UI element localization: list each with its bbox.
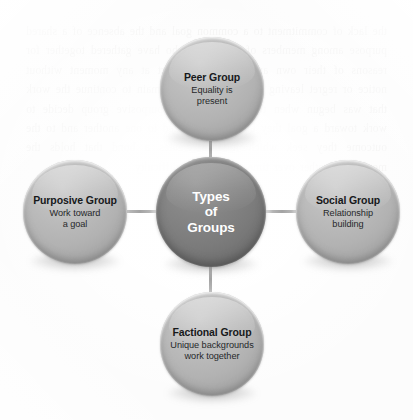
node-title: Purposive Group [27, 194, 123, 207]
center-title-line-1: Types [160, 189, 261, 205]
node-peer-group[interactable]: Peer Group Equality is present [160, 37, 264, 141]
node-types-of-groups[interactable]: Types of Groups [156, 157, 266, 267]
node-labels: Purposive Group Work toward a goal [27, 194, 123, 230]
node-social-group[interactable]: Social Group Relationship building [296, 160, 400, 264]
node-description-line-1: Work toward [27, 208, 123, 219]
node-description-line-1: Equality is [164, 85, 260, 96]
center-title-line-3: Groups [160, 220, 261, 236]
node-labels: Factional Group Unique backgrounds work … [164, 326, 260, 362]
node-title: Factional Group [164, 326, 260, 339]
center-title-line-2: of [160, 204, 261, 220]
node-description-line-2: building [300, 219, 396, 230]
node-title: Social Group [300, 194, 396, 207]
node-description-line-2: present [164, 96, 260, 107]
node-purposive-group[interactable]: Purposive Group Work toward a goal [23, 160, 127, 264]
node-title: Peer Group [164, 71, 260, 84]
node-labels: Types of Groups [160, 189, 261, 236]
node-description-line-1: Relationship [300, 208, 396, 219]
node-factional-group[interactable]: Factional Group Unique backgrounds work … [160, 292, 264, 396]
node-description-line-2: a goal [27, 219, 123, 230]
node-labels: Social Group Relationship building [300, 194, 396, 230]
node-description-line-1: Unique backgrounds [164, 340, 260, 351]
diagram-canvas: the lack of commitment to a common goal … [0, 0, 413, 420]
node-description-line-2: work together [164, 351, 260, 362]
node-labels: Peer Group Equality is present [164, 71, 260, 107]
